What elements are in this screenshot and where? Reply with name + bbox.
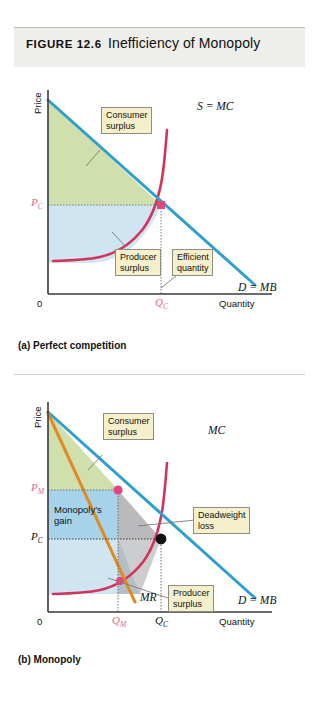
panel-a-supply-label: S = MC	[197, 100, 234, 112]
callout-line-2: surplus	[173, 599, 210, 610]
panel-a-y-axis-title: Price	[32, 92, 43, 114]
panel-b-caption: (b) Monopoly	[18, 654, 81, 665]
monopoly-gain-label: Monopoly's gain	[54, 504, 102, 526]
callout-line-1: Efficient	[177, 252, 209, 263]
panel-b-pc-tick: PC	[31, 530, 43, 545]
panel-b-mr-label: MR	[140, 591, 157, 603]
panel-a-pc-tick: PC	[31, 196, 43, 211]
panel-b-deadweight-loss-callout: Deadweight loss	[193, 507, 250, 534]
panel-a-demand-label: D = MB	[238, 281, 276, 293]
panel-b-y-axis-title: Price	[32, 406, 43, 428]
panel-b-qc-tick: QC	[155, 614, 168, 629]
panel-b-origin-label: 0	[37, 616, 42, 627]
monopoly-price-marker	[113, 485, 122, 494]
callout-line-1: Producer	[120, 252, 157, 263]
panel-separator-rule	[14, 374, 305, 375]
callout-line-2: surplus	[120, 263, 157, 274]
panel-b-plot	[0, 380, 317, 648]
callout-line-2: quantity	[177, 263, 209, 274]
callout-line-1: Deadweight	[198, 510, 246, 521]
figure-page: FIGURE 12.6 Inefficiency of Monopoly	[0, 0, 317, 705]
monopoly-gain-line-1: Monopoly's	[54, 504, 102, 515]
equilibrium-marker	[157, 201, 165, 209]
figure-number: FIGURE 12.6	[26, 38, 102, 50]
panel-b-x-axis-title: Quantity	[219, 616, 254, 627]
panel-b-pm-tick: PM	[31, 481, 44, 496]
panel-a-consumer-surplus-callout: Consumer surplus	[101, 107, 152, 134]
panel-a-qc-tick: QC	[155, 296, 168, 311]
deadweight-loss-region	[118, 490, 161, 539]
panel-b-consumer-surplus-callout: Consumer surplus	[103, 413, 154, 440]
panel-a-x-axis-title: Quantity	[219, 298, 254, 309]
callout-line-1: Consumer	[106, 110, 148, 121]
panel-a-origin-label: 0	[37, 298, 42, 309]
competitive-equilibrium-marker	[156, 534, 167, 545]
callout-line-1: Consumer	[108, 416, 150, 427]
efficient-quantity-leader	[161, 276, 176, 288]
callout-line-2: loss	[198, 521, 246, 532]
panel-b-demand-label: D = MB	[238, 594, 276, 606]
panel-b-producer-surplus-callout: Producer surplus	[168, 585, 214, 612]
monopoly-gain-line-2: gain	[54, 515, 72, 526]
callout-line-2: surplus	[106, 121, 148, 132]
callout-line-1: Producer	[173, 588, 210, 599]
panel-a-plot	[0, 72, 317, 334]
chart-perfect-competition: Price Quantity 0 PC QC S = MC D = MB Con…	[0, 72, 317, 334]
panel-a-caption: (a) Perfect competition	[18, 340, 126, 351]
callout-line-2: surplus	[108, 427, 150, 438]
panel-a-producer-surplus-callout: Producer surplus	[115, 249, 161, 276]
panel-b-mc-label: MC	[208, 424, 225, 436]
chart-monopoly: Price Quantity 0 PM PC QM QC MC MR D = M…	[0, 380, 317, 648]
panel-a-efficient-quantity-callout: Efficient quantity	[172, 249, 213, 276]
figure-title: Inefficiency of Monopoly	[108, 35, 260, 51]
panel-b-qm-tick: QM	[112, 614, 126, 629]
